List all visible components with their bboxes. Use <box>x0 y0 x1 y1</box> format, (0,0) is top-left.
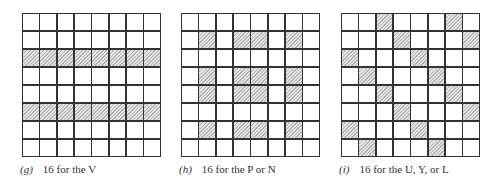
shaded-cell <box>359 68 375 84</box>
caption-i: (i)16 for the U, Y, or L <box>339 163 449 175</box>
grid-g <box>22 13 161 157</box>
empty-cell <box>23 14 39 30</box>
shaded-cell <box>23 50 39 66</box>
empty-cell <box>217 122 233 138</box>
shaded-cell <box>110 104 126 120</box>
empty-cell <box>342 104 358 120</box>
empty-cell <box>144 86 160 102</box>
empty-cell <box>463 86 479 102</box>
empty-cell <box>429 122 445 138</box>
empty-cell <box>58 122 74 138</box>
empty-cell <box>58 86 74 102</box>
shaded-cell <box>394 32 410 48</box>
empty-cell <box>182 140 198 156</box>
panel-i: (i)16 for the U, Y, or L <box>341 13 480 157</box>
empty-cell <box>58 140 74 156</box>
empty-cell <box>23 140 39 156</box>
caption-tag: (g) <box>20 163 33 175</box>
empty-cell <box>182 86 198 102</box>
empty-cell <box>217 50 233 66</box>
caption-tag: (i) <box>339 163 349 175</box>
empty-cell <box>217 68 233 84</box>
empty-cell <box>429 32 445 48</box>
shaded-cell <box>199 122 215 138</box>
empty-cell <box>411 68 427 84</box>
shaded-cell <box>234 122 250 138</box>
empty-cell <box>92 14 108 30</box>
empty-cell <box>269 122 285 138</box>
empty-cell <box>75 86 91 102</box>
shaded-cell <box>251 68 267 84</box>
caption-h: (h)16 for the P or N <box>179 163 276 175</box>
empty-cell <box>40 68 56 84</box>
empty-cell <box>303 68 319 84</box>
shaded-cell <box>463 104 479 120</box>
empty-cell <box>199 50 215 66</box>
empty-cell <box>110 86 126 102</box>
empty-cell <box>58 68 74 84</box>
empty-cell <box>58 14 74 30</box>
empty-cell <box>199 104 215 120</box>
caption-text: 16 for the P or N <box>202 163 276 175</box>
shaded-cell <box>75 50 91 66</box>
empty-cell <box>286 50 302 66</box>
grid-i <box>341 13 480 157</box>
caption-tag: (h) <box>179 163 192 175</box>
empty-cell <box>359 50 375 66</box>
empty-cell <box>144 140 160 156</box>
empty-cell <box>463 68 479 84</box>
shaded-cell <box>92 104 108 120</box>
empty-cell <box>377 104 393 120</box>
empty-cell <box>446 122 462 138</box>
grid-h <box>181 13 320 157</box>
empty-cell <box>217 86 233 102</box>
empty-cell <box>23 86 39 102</box>
empty-cell <box>411 104 427 120</box>
empty-cell <box>394 68 410 84</box>
empty-cell <box>127 32 143 48</box>
empty-cell <box>463 50 479 66</box>
empty-cell <box>127 14 143 30</box>
shaded-cell <box>199 86 215 102</box>
empty-cell <box>234 14 250 30</box>
empty-cell <box>92 68 108 84</box>
empty-cell <box>75 68 91 84</box>
empty-cell <box>127 68 143 84</box>
shaded-cell <box>251 122 267 138</box>
empty-cell <box>110 68 126 84</box>
empty-cell <box>359 104 375 120</box>
panel-g: (g)16 for the V <box>22 13 161 157</box>
shaded-cell <box>58 104 74 120</box>
empty-cell <box>110 122 126 138</box>
empty-cell <box>182 14 198 30</box>
shaded-cell <box>286 68 302 84</box>
empty-cell <box>75 14 91 30</box>
empty-cell <box>342 140 358 156</box>
empty-cell <box>377 50 393 66</box>
empty-cell <box>23 122 39 138</box>
empty-cell <box>269 32 285 48</box>
empty-cell <box>463 122 479 138</box>
empty-cell <box>40 14 56 30</box>
caption-g: (g)16 for the V <box>20 163 96 175</box>
empty-cell <box>303 140 319 156</box>
shaded-cell <box>342 122 358 138</box>
empty-cell <box>411 86 427 102</box>
shaded-cell <box>251 86 267 102</box>
empty-cell <box>199 140 215 156</box>
empty-cell <box>127 86 143 102</box>
empty-cell <box>40 32 56 48</box>
empty-cell <box>269 14 285 30</box>
empty-cell <box>269 104 285 120</box>
shaded-cell <box>234 86 250 102</box>
shaded-cell <box>234 32 250 48</box>
empty-cell <box>377 140 393 156</box>
empty-cell <box>110 14 126 30</box>
empty-cell <box>217 104 233 120</box>
empty-cell <box>342 86 358 102</box>
shaded-cell <box>75 104 91 120</box>
caption-text: 16 for the U, Y, or L <box>359 163 448 175</box>
shaded-cell <box>127 104 143 120</box>
shaded-cell <box>251 32 267 48</box>
shaded-cell <box>377 86 393 102</box>
